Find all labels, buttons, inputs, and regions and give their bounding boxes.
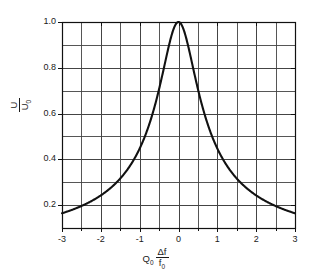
- x-axis-tick-label: 1: [202, 234, 232, 244]
- x-axis-label-denominator: f0: [157, 258, 167, 270]
- y-axis-tick-label: 0.4: [22, 153, 56, 163]
- x-axis-tick-label: 3: [280, 234, 310, 244]
- x-axis-tick-label: 2: [241, 234, 271, 244]
- y-axis-tick-label: 0.8: [22, 62, 56, 72]
- x-axis-tick-label: -1: [125, 234, 155, 244]
- x-axis-tick-label: 0: [164, 234, 194, 244]
- x-axis-label-numerator: Δf: [156, 247, 169, 257]
- x-axis-tick-label: -3: [47, 234, 77, 244]
- y-axis-tick-label: 0.2: [22, 199, 56, 209]
- y-axis-tick-label: 0.6: [22, 108, 56, 118]
- x-axis-tick-label: -2: [86, 234, 116, 244]
- y-axis-tick-label: 1.0: [22, 16, 56, 26]
- x-axis-label: Q0 Δf f0: [0, 247, 311, 270]
- resonance-curve-figure: U U0 0.20.40.60.81.0 -3-2-10123 Q0 Δf f0: [0, 0, 311, 275]
- resonance-curve: [62, 22, 295, 213]
- x-axis-label-symbol: Q0: [142, 253, 153, 266]
